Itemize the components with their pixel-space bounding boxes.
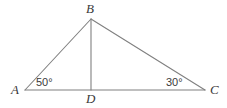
geometry-diagram: A B C D 50° 30°	[0, 0, 227, 108]
segment-bc	[91, 19, 205, 90]
vertex-label-d: D	[86, 92, 95, 105]
vertex-label-c: C	[210, 83, 219, 96]
triangle-figure	[0, 0, 227, 108]
vertex-label-a: A	[11, 83, 19, 96]
vertex-label-b: B	[86, 2, 94, 15]
angle-label-a: 50°	[36, 77, 53, 88]
segment-ab	[25, 19, 91, 90]
angle-label-c: 30°	[166, 77, 183, 88]
